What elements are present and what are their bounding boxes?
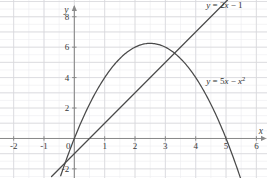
- curve-parabola: [61, 43, 242, 178]
- x-tick-label: 6: [254, 141, 259, 151]
- y-tick-label: 2: [65, 103, 70, 113]
- x-tick-label: 2: [133, 141, 138, 151]
- y-axis-name-label: y: [63, 5, 69, 15]
- y-tick-label: 6: [65, 42, 70, 52]
- plot-canvas: -2-10123456-22468 yx y = 2x − 1y = 5x − …: [0, 0, 267, 178]
- x-axis-arrow-icon: [261, 136, 267, 141]
- x-tick-label: 3: [163, 141, 168, 151]
- curve-label-parabola: y = 5x − x2: [205, 75, 245, 87]
- y-tick-label: 4: [65, 73, 70, 83]
- curve-equation-labels: y = 2x − 1y = 5x − x2: [205, 0, 245, 86]
- x-tick-label: -1: [40, 141, 48, 151]
- curves: [52, 0, 242, 178]
- y-axis-arrow-icon: [72, 5, 77, 11]
- axes: [0, 5, 267, 178]
- x-tick-label: -2: [10, 141, 18, 151]
- curve-line: [52, 0, 228, 176]
- graph-figure: -2-10123456-22468 yx y = 2x − 1y = 5x − …: [0, 0, 267, 178]
- x-tick-label: 1: [102, 141, 107, 151]
- curve-label-line: y = 2x − 1: [205, 0, 242, 10]
- x-tick-label: 4: [193, 141, 198, 151]
- axis-name-labels: yx: [63, 5, 264, 136]
- x-axis-name-label: x: [258, 126, 264, 136]
